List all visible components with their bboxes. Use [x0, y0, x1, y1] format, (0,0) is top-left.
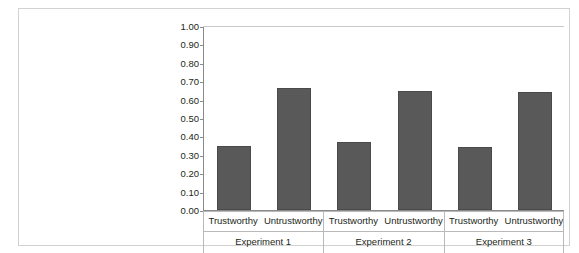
- y-axis-tick-label: 0.30: [167, 151, 199, 161]
- y-axis-tick-mark: [200, 174, 204, 175]
- group-separator: [444, 232, 445, 253]
- group-separator: [444, 212, 445, 232]
- label-row-edge-divider: [203, 232, 204, 253]
- y-axis-tick-label: 0.70: [167, 77, 199, 87]
- y-axis-tick-label: 0.60: [167, 96, 199, 106]
- y-axis-tick-mark: [200, 119, 204, 120]
- label-row-edge-divider: [203, 212, 204, 232]
- y-axis-tick-label: 0.50: [167, 114, 199, 124]
- y-axis-tick-label: 0.90: [167, 40, 199, 50]
- x-axis-group-label: Experiment 3: [444, 236, 564, 247]
- y-axis-tick-mark: [200, 45, 204, 46]
- x-axis-group-label: Experiment 1: [203, 236, 323, 247]
- bar[interactable]: [217, 146, 251, 210]
- group-separator: [323, 232, 324, 253]
- y-axis-tick-labels: 1.000.900.800.700.600.500.400.300.200.10…: [167, 21, 199, 217]
- bar[interactable]: [277, 88, 311, 210]
- x-axis-category-label: Trustworthy: [323, 215, 383, 226]
- bar[interactable]: [458, 147, 492, 210]
- bar[interactable]: [518, 92, 552, 210]
- bar[interactable]: [337, 142, 371, 210]
- x-axis-category-label: Trustworthy: [203, 215, 263, 226]
- y-axis-tick-label: 0.00: [167, 206, 199, 216]
- y-axis-tick-mark: [200, 27, 204, 28]
- y-axis-tick-label: 0.80: [167, 59, 199, 69]
- x-axis-group-label: Experiment 2: [323, 236, 443, 247]
- bar[interactable]: [398, 91, 432, 210]
- y-axis-tick-mark: [200, 156, 204, 157]
- x-axis-category-label: Trustworthy: [444, 215, 504, 226]
- y-axis-tick-mark: [200, 64, 204, 65]
- y-axis-tick-mark: [200, 101, 204, 102]
- plot-area: [203, 27, 564, 211]
- y-axis-tick-mark: [200, 137, 204, 138]
- x-axis-category-label: Untrustworthy: [263, 215, 323, 226]
- y-axis-tick-mark: [200, 193, 204, 194]
- group-separator: [323, 212, 324, 232]
- x-axis-category-label: Untrustworthy: [504, 215, 564, 226]
- y-axis-tick-label: 0.40: [167, 132, 199, 142]
- y-axis-tick-mark: [200, 82, 204, 83]
- label-row-edge-divider: [563, 232, 564, 253]
- x-axis-category-label: Untrustworthy: [384, 215, 444, 226]
- y-axis-tick-label: 0.20: [167, 169, 199, 179]
- y-axis-title: Probability Estimate of the Source Guess…: [131, 0, 157, 23]
- x-axis-group-row: Experiment 1Experiment 2Experiment 3: [203, 232, 564, 253]
- figure-frame: Probability Estimate of the Source Guess…: [18, 8, 570, 246]
- label-row-edge-divider: [563, 212, 564, 232]
- y-axis-tick-label: 0.10: [167, 188, 199, 198]
- x-axis-category-row: TrustworthyUntrustworthyTrustworthyUntru…: [203, 212, 564, 232]
- y-axis-tick-label: 1.00: [167, 22, 199, 32]
